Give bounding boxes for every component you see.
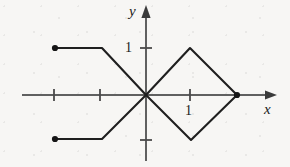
- x-axis-arrow-icon: [265, 91, 277, 100]
- y-axis-label: y: [129, 4, 136, 19]
- x-tick-label-one: 1: [185, 104, 192, 118]
- left-lower-endpoint-dot: [52, 136, 58, 142]
- axes-group: [22, 5, 277, 161]
- lower-left-branch: [55, 95, 146, 139]
- y-tick-label-one: 1: [125, 41, 132, 55]
- y-axis-arrow-icon: [141, 5, 150, 18]
- diamond-right-vertex-dot: [234, 92, 240, 98]
- graph-figure: y x 1 1: [0, 0, 290, 167]
- coordinate-plot: [0, 0, 290, 167]
- left-upper-endpoint-dot: [52, 45, 58, 51]
- upper-left-branch: [55, 48, 146, 95]
- x-axis-label: x: [264, 102, 271, 117]
